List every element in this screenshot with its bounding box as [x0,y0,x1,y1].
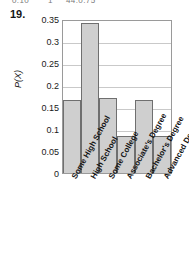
y-tick-label: 0.3 [19,37,59,47]
y-tick-label: 0.35 [19,15,59,25]
bar-series [63,21,171,173]
y-tick-label: 0.15 [19,103,59,113]
plot-area [62,20,172,174]
y-tick-label: 0.05 [19,147,59,157]
x-axis-tick-labels: Some High SchoolHigh SchoolSome CollegeA… [62,176,189,278]
y-tick-label: 0 [19,169,59,179]
y-axis-tick-labels: 00.050.10.150.20.250.30.35 [18,0,59,278]
y-tick-label: 0.2 [19,81,59,91]
y-tick-label: 0.25 [19,59,59,69]
bar-chart-figure: P(X) 00.050.10.150.20.250.30.35 Some Hig… [0,0,189,278]
y-tick-label: 0.1 [19,125,59,135]
